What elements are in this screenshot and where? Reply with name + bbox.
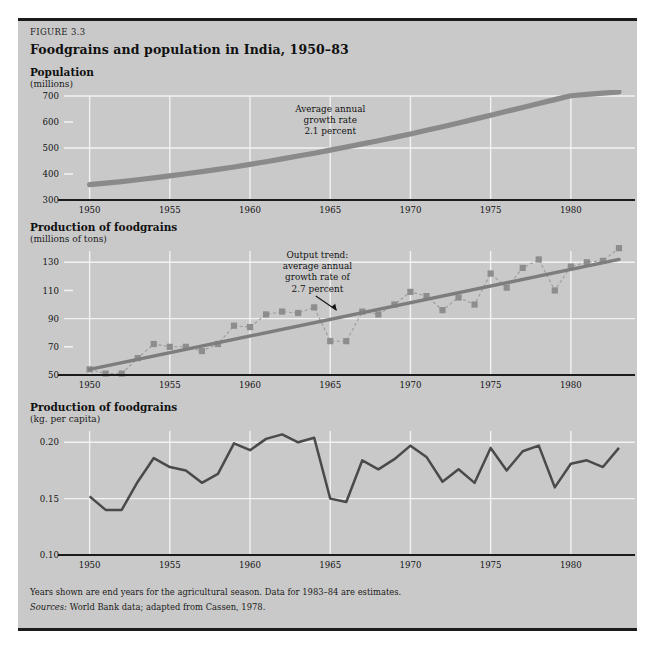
annotation-line: 2.1 percent bbox=[304, 126, 356, 136]
data-point-marker bbox=[504, 285, 510, 291]
output-svg: 5070901101301950195519601965197019751980… bbox=[18, 245, 637, 397]
data-point-marker bbox=[199, 348, 205, 354]
data-point-marker bbox=[520, 265, 526, 271]
annotation-arrow-head bbox=[331, 304, 336, 310]
data-point-marker bbox=[167, 344, 173, 350]
data-point-marker bbox=[488, 270, 494, 276]
data-point-marker bbox=[439, 307, 445, 313]
data-point-marker bbox=[327, 338, 333, 344]
chart-population-plot: 3004005006007001950195519601965197019751… bbox=[18, 90, 637, 222]
chart-population-heading: Population bbox=[30, 66, 94, 78]
trend-line bbox=[90, 259, 619, 369]
top-divider bbox=[18, 18, 637, 21]
x-axis-tick-label: 1950 bbox=[79, 560, 101, 570]
chart-output: Production of foodgrains (millions of to… bbox=[18, 221, 637, 406]
page-title: Foodgrains and population in India, 1950… bbox=[30, 42, 349, 57]
data-connector-line bbox=[90, 248, 619, 373]
annotation-line: Output trend: bbox=[287, 250, 349, 260]
chart-output-units: (millions of tons) bbox=[30, 234, 107, 244]
y-axis-tick-label: 70 bbox=[48, 342, 59, 352]
x-axis-tick-label: 1960 bbox=[239, 205, 261, 215]
x-axis-tick-label: 1960 bbox=[239, 560, 261, 570]
x-axis-tick-label: 1955 bbox=[159, 380, 181, 390]
x-axis-tick-label: 1970 bbox=[399, 205, 421, 215]
chart-percapita-units: (kg. per capita) bbox=[30, 414, 100, 424]
x-axis-tick-label: 1965 bbox=[319, 560, 341, 570]
chart-population: Population (millions) 300400500600700195… bbox=[18, 66, 637, 236]
y-axis-tick-label: 0.15 bbox=[40, 494, 59, 504]
annotation-line: 2.7 percent bbox=[292, 284, 344, 294]
data-point-marker bbox=[471, 301, 477, 307]
figure-panel: FIGURE 3.3 Foodgrains and population in … bbox=[18, 18, 637, 631]
data-point-marker bbox=[407, 289, 413, 295]
x-axis-tick-label: 1950 bbox=[79, 380, 101, 390]
x-axis-tick-label: 1975 bbox=[480, 560, 502, 570]
chart-percapita-heading: Production of foodgrains bbox=[30, 401, 177, 413]
chart-output-heading: Production of foodgrains bbox=[30, 221, 177, 233]
data-point-marker bbox=[231, 323, 237, 329]
chart-percapita-plot: 0.100.150.201950195519601965197019751980 bbox=[18, 425, 637, 577]
y-axis-tick-label: 500 bbox=[43, 143, 59, 153]
x-axis-tick-label: 1980 bbox=[560, 205, 582, 215]
data-point-marker bbox=[295, 310, 301, 316]
data-point-marker bbox=[343, 338, 349, 344]
annotation-line: average annual bbox=[283, 261, 353, 271]
chart-percapita: Production of foodgrains (kg. per capita… bbox=[18, 401, 637, 586]
x-axis-tick-label: 1965 bbox=[319, 380, 341, 390]
chart-output-plot: 5070901101301950195519601965197019751980… bbox=[18, 245, 637, 397]
y-axis-tick-label: 700 bbox=[43, 91, 59, 101]
x-axis-tick-label: 1980 bbox=[560, 560, 582, 570]
y-axis-tick-label: 300 bbox=[43, 195, 59, 205]
bottom-divider bbox=[18, 628, 637, 631]
y-axis-tick-label: 110 bbox=[43, 286, 59, 296]
y-axis-tick-label: 600 bbox=[43, 117, 59, 127]
x-axis-tick-label: 1970 bbox=[399, 380, 421, 390]
y-axis-tick-label: 0.10 bbox=[40, 550, 59, 560]
data-point-marker bbox=[375, 311, 381, 317]
y-axis-tick-label: 0.20 bbox=[40, 437, 59, 447]
annotation-line: Average annual bbox=[294, 104, 365, 114]
footnote-sources: Sources: World Bank data; adapted from C… bbox=[30, 602, 626, 612]
data-point-marker bbox=[311, 304, 317, 310]
percapita-svg: 0.100.150.201950195519601965197019751980 bbox=[18, 425, 637, 577]
data-point-marker bbox=[552, 287, 558, 293]
x-axis-tick-label: 1955 bbox=[159, 205, 181, 215]
y-axis-tick-label: 400 bbox=[43, 169, 59, 179]
footnote-note: Years shown are end years for the agricu… bbox=[30, 587, 626, 597]
data-point-marker bbox=[263, 311, 269, 317]
chart-annotation: Output trend:average annualgrowth rate o… bbox=[283, 250, 353, 310]
data-point-marker bbox=[279, 308, 285, 314]
data-point-marker bbox=[616, 245, 622, 251]
y-axis-tick-label: 50 bbox=[48, 370, 59, 380]
x-axis-tick-label: 1965 bbox=[319, 205, 341, 215]
data-point-marker bbox=[151, 341, 157, 347]
annotation-line: growth rate of bbox=[285, 272, 350, 282]
x-axis-tick-label: 1975 bbox=[480, 380, 502, 390]
x-axis-tick-label: 1975 bbox=[480, 205, 502, 215]
population-svg: 3004005006007001950195519601965197019751… bbox=[18, 90, 637, 222]
x-axis-tick-label: 1960 bbox=[239, 380, 261, 390]
annotation-line: growth rate bbox=[304, 115, 357, 125]
x-axis-tick-label: 1950 bbox=[79, 205, 101, 215]
data-point-marker bbox=[536, 256, 542, 262]
x-axis-tick-label: 1980 bbox=[560, 380, 582, 390]
y-axis-tick-label: 90 bbox=[48, 314, 59, 324]
chart-population-units: (millions) bbox=[30, 79, 73, 89]
footnote-sources-label: Sources: bbox=[30, 602, 67, 612]
x-axis-tick-label: 1955 bbox=[159, 560, 181, 570]
data-point-marker bbox=[455, 294, 461, 300]
figure-number: FIGURE 3.3 bbox=[30, 27, 86, 37]
chart-annotation: Average annualgrowth rate2.1 percent bbox=[294, 104, 365, 136]
y-axis-tick-label: 130 bbox=[43, 257, 59, 267]
footnote-sources-text: World Bank data; adapted from Cassen, 19… bbox=[70, 602, 266, 612]
data-point-marker bbox=[247, 324, 253, 330]
x-axis-tick-label: 1970 bbox=[399, 560, 421, 570]
footnotes: Years shown are end years for the agricu… bbox=[30, 587, 626, 617]
